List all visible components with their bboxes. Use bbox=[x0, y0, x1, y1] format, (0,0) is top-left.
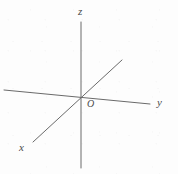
y-axis-label: y bbox=[157, 97, 162, 108]
origin-label: O bbox=[87, 99, 94, 109]
coordinate-axes-figure: z y x O bbox=[0, 0, 178, 174]
axes-drawing bbox=[0, 0, 178, 174]
x-axis-line bbox=[33, 60, 122, 142]
z-axis-label: z bbox=[78, 6, 82, 17]
x-axis-label: x bbox=[19, 142, 24, 153]
